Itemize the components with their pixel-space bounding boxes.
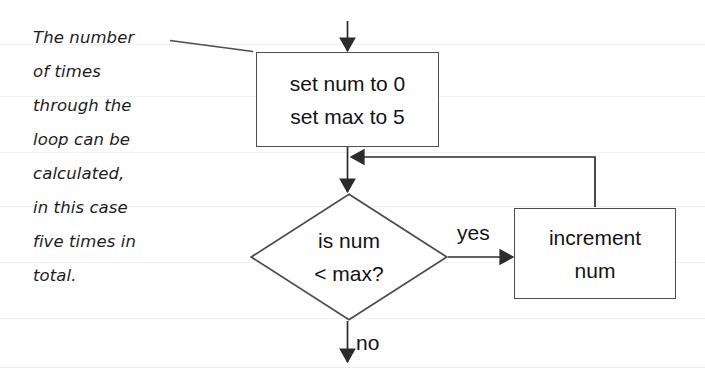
annotation-line: total. — [33, 259, 193, 293]
flowchart-canvas: The number of times through the loop can… — [0, 0, 705, 379]
process-node-line2: set max to 5 — [290, 100, 404, 133]
decision-node-is-num-less-than-max[interactable]: is num < max? — [250, 193, 448, 321]
scan-artifact — [0, 367, 705, 368]
annotation-line: of times — [33, 55, 193, 89]
edge-label-no: no — [356, 332, 379, 353]
annotation-line: in this case — [33, 191, 193, 225]
process-node-line1: set num to 0 — [290, 67, 406, 100]
annotation-line: The number — [33, 21, 193, 55]
annotation-line: loop can be — [33, 123, 193, 157]
increment-node-line2: num — [575, 254, 616, 287]
diamond-shape-icon — [250, 193, 448, 321]
annotation-line: through the — [33, 89, 193, 123]
annotation-text: The number of times through the loop can… — [33, 21, 193, 293]
process-node-increment[interactable]: increment num — [514, 208, 676, 299]
process-node-initialize[interactable]: set num to 0 set max to 5 — [256, 52, 439, 147]
annotation-line: five times in — [33, 225, 193, 259]
increment-node-line1: increment — [549, 221, 641, 254]
annotation-line: calculated, — [33, 157, 193, 191]
edge-label-yes: yes — [457, 222, 490, 243]
